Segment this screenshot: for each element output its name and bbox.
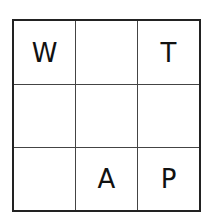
letter-grid: W T A P xyxy=(12,19,201,212)
grid-cell-r2-c1 xyxy=(14,85,76,148)
grid-cell-r2-c2 xyxy=(76,85,138,148)
grid-cell-r1-c3: T xyxy=(138,21,199,85)
grid-cell-r3-c3: P xyxy=(138,148,199,210)
grid-cell-r3-c1 xyxy=(14,148,76,210)
grid-cell-r1-c1: W xyxy=(14,21,76,85)
grid-cell-r2-c3 xyxy=(138,85,199,148)
grid-cell-r1-c2 xyxy=(76,21,138,85)
grid-cell-r3-c2: A xyxy=(76,148,138,210)
